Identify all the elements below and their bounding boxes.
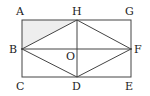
segment-df	[77, 49, 131, 77]
label-e: E	[125, 80, 133, 93]
point-b-dot	[21, 48, 23, 50]
label-g: G	[125, 5, 134, 18]
geometry-diagram: A H G B O F C D E	[0, 0, 150, 96]
label-c: C	[16, 80, 24, 93]
label-h: H	[72, 5, 82, 18]
label-o: O	[66, 50, 75, 63]
segment-fh	[77, 20, 131, 49]
label-f: F	[134, 43, 142, 56]
label-d: D	[72, 80, 81, 93]
label-a: A	[15, 5, 25, 18]
point-f-dot	[130, 48, 132, 50]
label-b: B	[9, 43, 17, 56]
